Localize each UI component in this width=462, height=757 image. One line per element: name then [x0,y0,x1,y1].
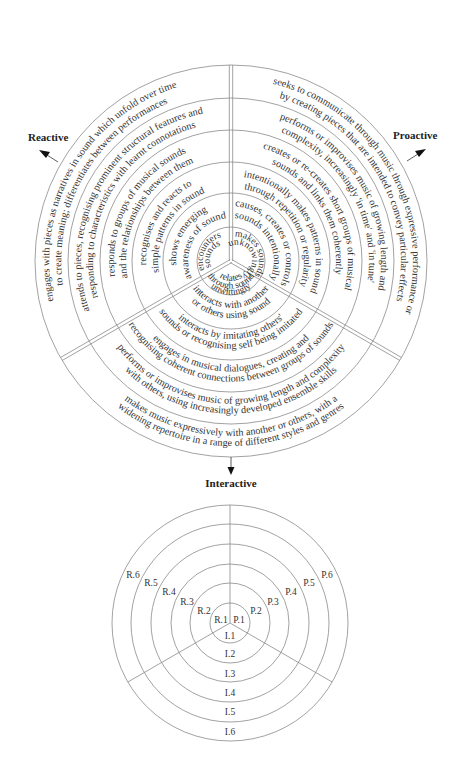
key-code-r5: R.5 [144,578,158,588]
reactive-arrowhead-icon [39,150,50,158]
key-code-r1: R.1 [214,615,228,625]
key-divider-right [230,623,332,682]
interactive-axis: Interactive [205,457,256,489]
key-code-p3: P.3 [267,597,279,607]
key-code-p2: P.2 [250,606,262,616]
reactive-arrow-line [47,155,58,162]
sounds-of-intent-diagram: encounters sounds shows emerging awarene… [0,0,462,757]
key-code-i5: I.5 [225,707,236,717]
key-code-r2: R.2 [197,606,211,616]
key-code-p6: P.6 [321,570,333,580]
key-diagram: R.1 R.2 R.3 R.4 R.5 R.6 P.1 P.2 P.3 P.4 … [112,505,348,741]
proactive-arrowhead-icon [415,149,426,157]
key-code-r4: R.4 [162,587,176,597]
key-code-i6: I.6 [225,727,236,737]
key-code-i3: I.3 [225,669,236,679]
interactive-axis-label: Interactive [205,477,256,489]
main-diagram: encounters sounds shows emerging awarene… [28,65,438,489]
key-code-r6: R.6 [126,570,140,580]
proactive-arrow-line [407,154,418,161]
proactive-axis-label: Proactive [393,129,438,141]
key-interactive-codes: I.1 I.2 I.3 I.4 I.5 I.6 [225,631,236,737]
key-divider-left [128,623,230,682]
key-code-p4: P.4 [285,587,297,597]
key-code-p1: P.1 [233,615,245,625]
reactive-axis: Reactive [28,131,68,162]
interactive-sector: relates through sound unwittingly intera… [116,269,347,448]
key-code-i4: I.4 [225,688,236,698]
key-code-i2: I.2 [225,649,236,659]
key-code-p5: P.5 [303,578,315,588]
reactive-axis-label: Reactive [28,131,68,143]
proactive-axis: Proactive [393,129,438,161]
key-code-r3: R.3 [180,597,194,607]
key-code-i1: I.1 [225,631,236,641]
interactive-arrowhead-icon [228,467,235,475]
